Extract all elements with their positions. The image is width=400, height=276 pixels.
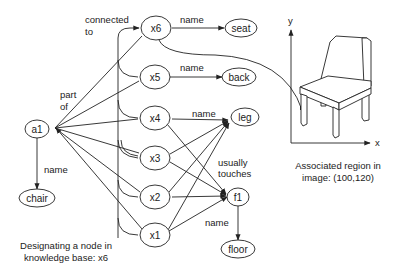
usually-touches-label-1: usually <box>218 157 248 168</box>
name-label-x6-seat: name <box>180 14 204 25</box>
connected-to-label-2: to <box>85 26 93 37</box>
node-x5-label: x5 <box>150 72 161 83</box>
node-leg-label: leg <box>238 112 251 123</box>
name-label-a1-chair: name <box>44 164 68 175</box>
node-chair-label: chair <box>26 193 48 204</box>
connected-to-label-1: connected <box>85 14 129 25</box>
node-f1[interactable]: f1 <box>227 188 249 206</box>
node-floor[interactable]: floor <box>221 240 255 258</box>
region-caption-line-2: image: (100,120) <box>278 172 398 184</box>
usually-touches-label-2: touches <box>218 168 252 179</box>
node-x4[interactable]: x4 <box>140 106 170 130</box>
node-f1-label: f1 <box>234 192 243 203</box>
connected-to-edges <box>118 28 139 238</box>
node-x1-label: x1 <box>150 230 161 241</box>
associated-region-caption: Associated region in image: (100,120) <box>278 160 398 184</box>
designating-caption-line-2: knowledge base: x6 <box>8 252 124 264</box>
name-label-f1-floor: name <box>205 217 229 228</box>
node-x6[interactable]: x6 <box>141 16 171 40</box>
y-axis-label: y <box>288 15 293 26</box>
name-label-x5-back: name <box>180 62 204 73</box>
node-leg[interactable]: leg <box>231 108 259 126</box>
node-floor-label: floor <box>228 244 248 255</box>
node-x4-label: x4 <box>150 113 161 124</box>
node-x2[interactable]: x2 <box>140 185 170 209</box>
node-x6-label: x6 <box>151 23 162 34</box>
part-of-edges <box>55 36 142 229</box>
region-caption-line-1: Associated region in <box>278 160 398 172</box>
node-back[interactable]: back <box>222 68 256 86</box>
node-seat[interactable]: seat <box>225 19 257 37</box>
node-x5[interactable]: x5 <box>140 65 170 89</box>
designating-node-caption: Designating a node in knowledge base: x6 <box>8 240 124 264</box>
x-axis-label: x <box>375 137 380 148</box>
node-x3-label: x3 <box>150 153 161 164</box>
node-x1[interactable]: x1 <box>140 223 170 247</box>
node-chair[interactable]: chair <box>19 189 55 207</box>
designating-caption-line-1: Designating a node in <box>8 240 124 252</box>
node-back-label: back <box>228 72 250 83</box>
node-seat-label: seat <box>232 23 251 34</box>
node-x2-label: x2 <box>150 192 161 203</box>
node-x3[interactable]: x3 <box>140 146 170 170</box>
knowledge-base-diagram: a1 chair x6 x5 x4 x3 x2 x1 seat back leg <box>0 0 400 276</box>
part-of-label-2: of <box>60 101 68 112</box>
name-label-x4-leg: name <box>192 108 216 119</box>
node-a1[interactable]: a1 <box>25 120 49 138</box>
chair-image <box>300 36 371 138</box>
part-of-label-1: part <box>60 89 77 100</box>
node-a1-label: a1 <box>31 124 43 135</box>
